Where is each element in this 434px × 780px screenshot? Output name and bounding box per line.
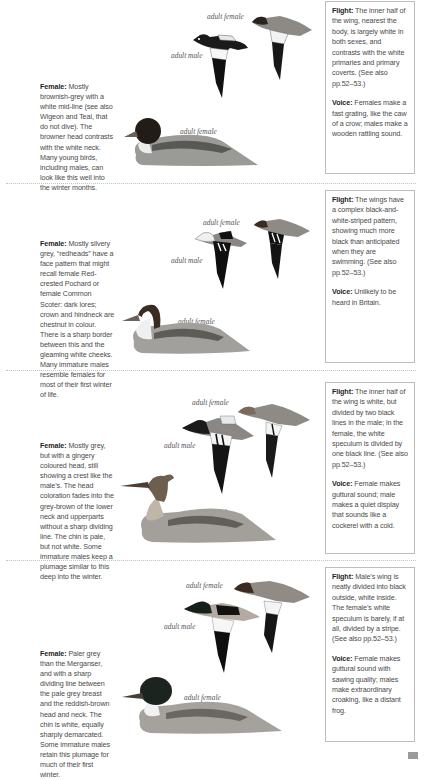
page-tab-marker [408,752,418,759]
flight-heading: Flight: [332,387,353,396]
flying-female-illustration [236,400,312,480]
female-description: Female: Mostly grey, but with a gingery … [40,441,115,582]
voice-heading: Voice: [332,654,352,663]
voice-paragraph: Voice: Female makes guttural sound; male… [332,479,408,531]
voice-paragraph: Voice: Females make a fast grating, like… [332,98,408,140]
flight-paragraph: Flight: The inner half of the wing, near… [332,6,408,89]
flying-female-illustration [250,12,316,82]
swimming-female-illustration [120,297,255,357]
species-section-4: Female: Paler grey than the Merganser, a… [0,567,434,757]
flight-text: The inner half of the wing is white, but… [332,387,408,469]
female-heading: Female: [40,649,66,658]
section-divider [6,560,416,561]
flight-text: The wings have a complex black-and-white… [332,195,404,277]
flying-female-illustration [232,577,312,655]
species-section-2: Female: Mostly silvery grey, “redheads” … [0,185,434,370]
swimming-female-illustration [120,675,285,735]
swimming-female-illustration [122,115,262,167]
female-heading: Female: [40,82,66,91]
female-text: Mostly brownish-grey with a white mid-li… [40,82,113,192]
info-box: Flight: The inner half of the wing, near… [325,1,415,174]
flight-heading: Flight: [332,572,353,581]
flight-paragraph: Flight: Male’s wing is neatly divided in… [332,572,408,645]
species-section-3: Female: Mostly grey, but with a gingery … [0,380,434,560]
female-heading: Female: [40,239,66,248]
info-box: Flight: The wings have a complex black-a… [325,190,415,363]
voice-heading: Voice: [332,287,352,296]
flying-female-illustration [252,217,312,281]
label-flight-female: adult female [207,12,244,21]
female-description: Female: Mostly brownish-grey with a whit… [40,82,115,193]
female-text: Mostly silvery grey, “redheads” have a f… [40,239,114,399]
flight-paragraph: Flight: The wings have a complex black-a… [332,195,408,278]
female-text: Paler grey than the Merganser, and with … [40,649,110,779]
flight-text: The inner half of the wing, nearest the … [332,6,405,88]
female-description: Female: Paler grey than the Merganser, a… [40,649,115,780]
flight-heading: Flight: [332,195,353,204]
info-box: Flight: Male’s wing is neatly divided in… [325,567,415,742]
flying-male-illustration [193,225,255,291]
section-divider [6,183,416,184]
flight-paragraph: Flight: The inner half of the wing is wh… [332,387,408,470]
voice-paragraph: Voice: Unlikely to be heard in Britain. [332,287,408,308]
voice-heading: Voice: [332,479,352,488]
section-divider [6,370,416,371]
female-heading: Female: [40,441,66,450]
voice-paragraph: Voice: Female makes guttural sound with … [332,654,408,716]
female-description: Female: Mostly silvery grey, “redheads” … [40,239,115,401]
flight-text: Male’s wing is neatly divided into black… [332,572,406,643]
flight-heading: Flight: [332,6,353,15]
voice-heading: Voice: [332,98,352,107]
swimming-female-illustration [118,470,278,546]
species-section-1: Female: Mostly brownish-grey with a whit… [0,0,434,183]
info-box: Flight: The inner half of the wing is wh… [325,382,415,554]
label-flight-female: adult female [186,581,223,590]
